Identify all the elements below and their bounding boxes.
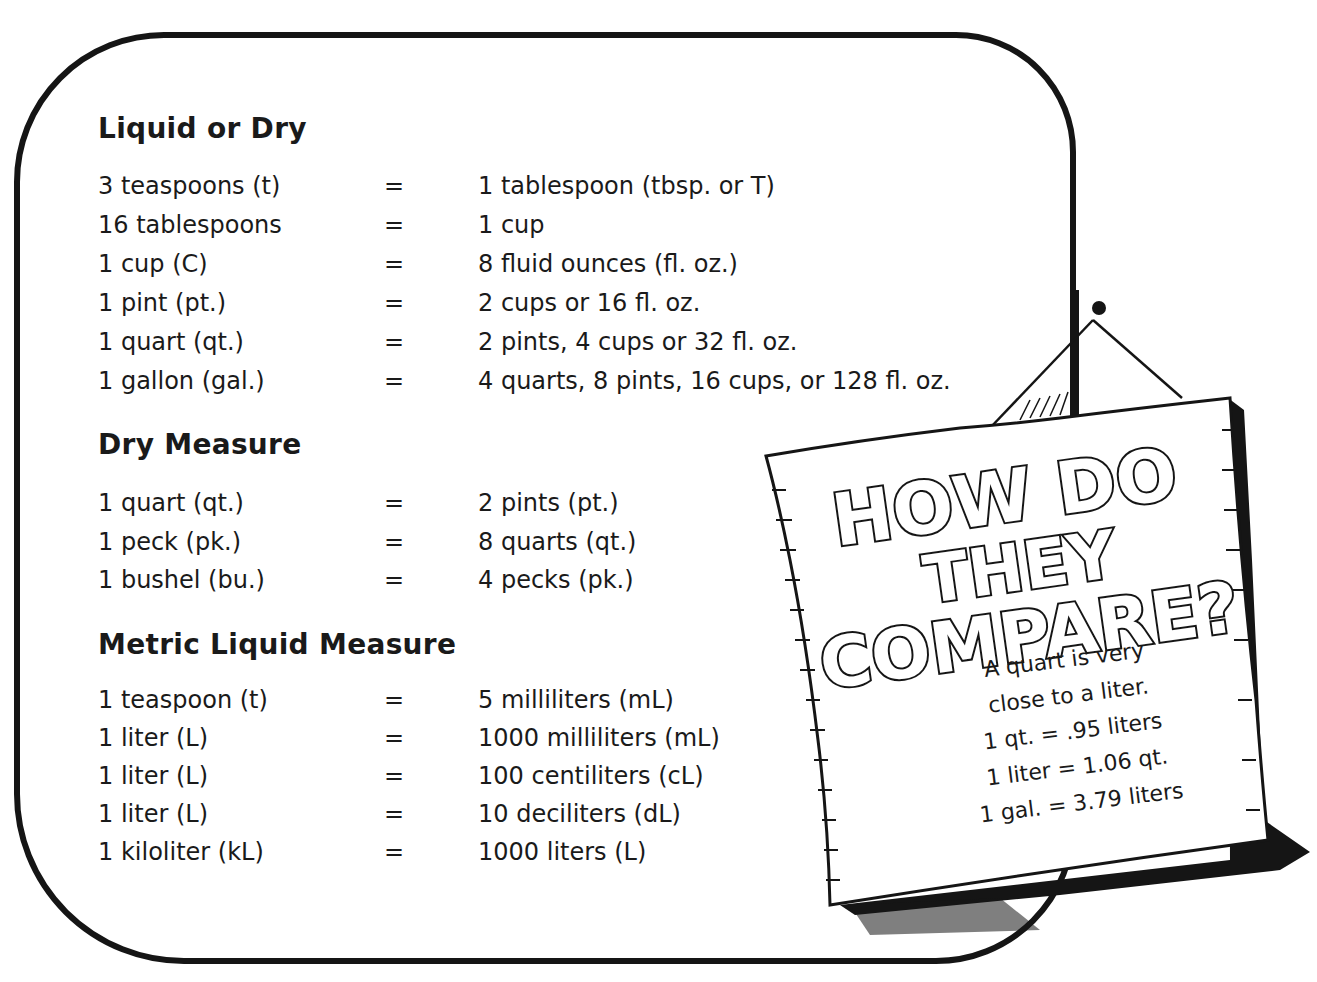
row-lhs: 1 bushel (bu.) [98, 566, 265, 594]
row-rhs: 10 deciliters (dL) [478, 800, 681, 828]
row-rhs: 8 fluid ounces (fl. oz.) [478, 250, 738, 278]
row-rhs: 5 milliliters (mL) [478, 686, 674, 714]
row-lhs: 1 kiloliter (kL) [98, 838, 264, 866]
equals-sign: = [384, 686, 404, 714]
equals-sign: = [384, 566, 404, 594]
row-rhs: 1000 liters (L) [478, 838, 646, 866]
equals-sign: = [384, 528, 404, 556]
row-rhs: 100 centiliters (cL) [478, 762, 704, 790]
row-lhs: 1 gallon (gal.) [98, 367, 265, 395]
row-rhs: 4 quarts, 8 pints, 16 cups, or 128 fl. o… [478, 367, 951, 395]
section-title-metric-liquid-measure: Metric Liquid Measure [98, 628, 456, 661]
row-lhs: 1 teaspoon (t) [98, 686, 268, 714]
nail-icon [1092, 301, 1106, 315]
equals-sign: = [384, 800, 404, 828]
equals-sign: = [384, 762, 404, 790]
section-title-liquid-or-dry: Liquid or Dry [98, 112, 307, 145]
row-rhs: 4 pecks (pk.) [478, 566, 634, 594]
equals-sign: = [384, 250, 404, 278]
equals-sign: = [384, 367, 404, 395]
row-rhs: 2 cups or 16 fl. oz. [478, 289, 700, 317]
row-lhs: 1 peck (pk.) [98, 528, 241, 556]
row-rhs: 2 pints, 4 cups or 32 fl. oz. [478, 328, 798, 356]
equals-sign: = [384, 172, 404, 200]
sign-body-text: A quart is very close to a liter. 1 qt. … [918, 625, 1228, 839]
row-lhs: 3 teaspoons (t) [98, 172, 280, 200]
row-rhs: 1 tablespoon (tbsp. or T) [478, 172, 775, 200]
row-lhs: 1 liter (L) [98, 762, 208, 790]
equals-sign: = [384, 489, 404, 517]
row-lhs: 1 liter (L) [98, 724, 208, 752]
equals-sign: = [384, 289, 404, 317]
equals-sign: = [384, 838, 404, 866]
row-lhs: 1 cup (C) [98, 250, 208, 278]
equals-sign: = [384, 211, 404, 239]
equals-sign: = [384, 724, 404, 752]
section-title-dry-measure: Dry Measure [98, 428, 302, 461]
row-rhs: 1 cup [478, 211, 545, 239]
row-lhs: 1 liter (L) [98, 800, 208, 828]
row-lhs: 1 quart (qt.) [98, 328, 244, 356]
row-rhs: 8 quarts (qt.) [478, 528, 636, 556]
row-lhs: 16 tablespoons [98, 211, 282, 239]
equals-sign: = [384, 328, 404, 356]
row-rhs: 2 pints (pt.) [478, 489, 619, 517]
row-rhs: 1000 milliliters (mL) [478, 724, 720, 752]
row-lhs: 1 quart (qt.) [98, 489, 244, 517]
row-lhs: 1 pint (pt.) [98, 289, 226, 317]
